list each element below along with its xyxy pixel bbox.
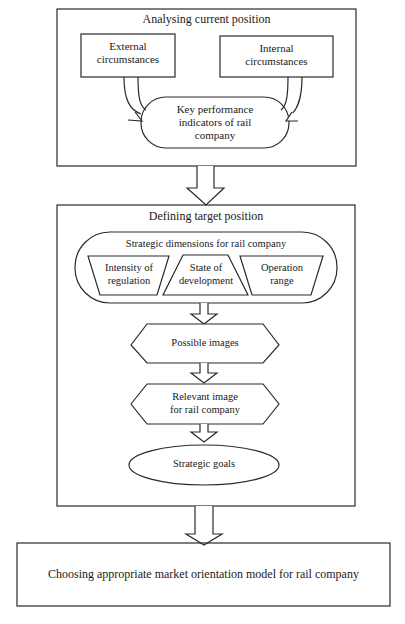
kpi-label-line1: Key performance: [141, 103, 289, 116]
strategic-goals-label: Strategic goals: [129, 458, 279, 471]
relevant-line1: Relevant image: [131, 391, 279, 404]
intensity-line1: Intensity of: [90, 262, 168, 275]
relevant-image-label: Relevant image for rail company: [131, 391, 279, 416]
operation-line1: Operation: [244, 262, 320, 275]
strategic-dimensions-title: Strategic dimensions for rail company: [75, 238, 337, 251]
block-arrow-1-icon: [187, 166, 224, 205]
dimension-intensity-label: Intensity of regulation: [90, 262, 168, 287]
operation-line2: range: [244, 275, 320, 288]
external-label-line2: circumstances: [81, 53, 175, 66]
state-line2: development: [166, 275, 246, 288]
kpi-label: Key performance indicators of rail compa…: [141, 103, 289, 143]
dimension-operation-label: Operation range: [244, 262, 320, 287]
block-arrow-3-icon: [191, 363, 217, 383]
possible-images-label: Possible images: [131, 337, 279, 350]
external-label-line1: External: [81, 40, 175, 53]
relevant-line2: for rail company: [131, 404, 279, 417]
intensity-line2: regulation: [90, 275, 168, 288]
block-arrow-2-icon: [191, 303, 217, 324]
stage-analysing-title: Analysing current position: [57, 12, 356, 26]
kpi-label-line3: company: [141, 129, 289, 142]
block-arrow-5-icon: [186, 506, 222, 545]
stage-choosing-title: Choosing appropriate market orientation …: [17, 567, 390, 581]
state-line1: State of: [166, 262, 246, 275]
flowchart-canvas: [0, 0, 405, 624]
external-circumstances-label: External circumstances: [81, 40, 175, 66]
internal-label-line1: Internal: [220, 42, 333, 55]
block-arrow-4-icon: [191, 424, 217, 442]
stage-defining-title: Defining target position: [57, 209, 355, 223]
dimension-state-label: State of development: [166, 262, 246, 287]
internal-circumstances-label: Internal circumstances: [220, 42, 333, 68]
kpi-label-line2: indicators of rail: [141, 116, 289, 129]
internal-label-line2: circumstances: [220, 55, 333, 68]
